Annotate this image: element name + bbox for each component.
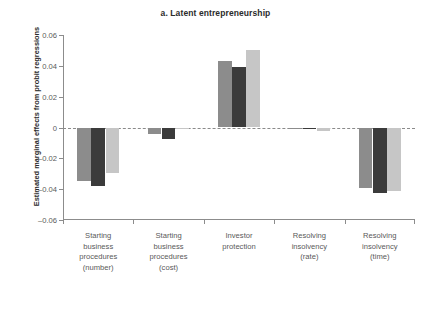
x-category-label-line: Resolving xyxy=(345,231,415,242)
x-category-label-line: procedures xyxy=(133,252,203,263)
chart-title: a. Latent entrepreneurship xyxy=(0,8,431,18)
x-category-label-line: (rate) xyxy=(274,252,344,263)
bar xyxy=(77,128,91,181)
x-tick-mark xyxy=(345,220,346,224)
bar xyxy=(106,128,120,173)
y-tick-label: –0.02 xyxy=(38,154,57,163)
bar xyxy=(91,128,105,187)
x-category-label-line: Starting xyxy=(133,231,203,242)
bar xyxy=(303,128,317,129)
y-tick-label: 0 xyxy=(53,123,57,132)
x-category-label-line: procedures xyxy=(63,252,133,263)
y-tick-label: 0.06 xyxy=(42,31,57,40)
x-tick-mark xyxy=(414,220,415,224)
bar xyxy=(373,128,387,194)
x-category-label-line: insolvency xyxy=(274,242,344,253)
x-category-label-line: protection xyxy=(204,242,274,253)
bar xyxy=(148,128,162,134)
bar xyxy=(359,128,373,188)
bar xyxy=(162,128,176,139)
bar-group xyxy=(359,35,401,220)
x-category-label-line: insolvency xyxy=(345,242,415,253)
x-category-label-line: (time) xyxy=(345,252,415,263)
bar xyxy=(176,128,190,130)
x-tick-mark xyxy=(133,220,134,224)
bar xyxy=(317,128,331,131)
x-tick-mark xyxy=(274,220,275,224)
y-tick-label: 0.04 xyxy=(42,61,57,70)
y-tick-label: –0.06 xyxy=(38,216,57,225)
chart-figure: a. Latent entrepreneurship Estimated mar… xyxy=(0,0,431,309)
bar-group xyxy=(77,35,119,220)
x-category-label-line: (number) xyxy=(63,263,133,274)
bar xyxy=(218,61,232,127)
bar xyxy=(232,67,246,128)
bar-group xyxy=(289,35,331,220)
x-category-label-line: Starting xyxy=(63,231,133,242)
y-tick-mark xyxy=(59,128,63,129)
x-category-label: Startingbusinessprocedures(number) xyxy=(63,231,133,273)
x-category-label: Startingbusinessprocedures(cost) xyxy=(133,231,203,273)
y-tick-mark xyxy=(59,189,63,190)
x-category-label: Resolvinginsolvency(time) xyxy=(345,231,415,263)
y-tick-mark xyxy=(59,66,63,67)
bar xyxy=(387,128,401,192)
x-category-label-line: business xyxy=(133,242,203,253)
x-category-label-line: business xyxy=(63,242,133,253)
x-category-label-line: Resolving xyxy=(274,231,344,242)
bar-group xyxy=(218,35,260,220)
y-tick-label: 0.02 xyxy=(42,92,57,101)
x-category-label-line: Investor xyxy=(204,231,274,242)
plot-area: 0.060.040.020–0.02–0.04–0.06 Startingbus… xyxy=(63,35,415,220)
bar-group xyxy=(148,35,190,220)
y-tick-mark xyxy=(59,35,63,36)
y-tick-mark xyxy=(59,158,63,159)
bar xyxy=(289,128,303,129)
y-tick-mark xyxy=(59,97,63,98)
x-category-label: Resolvinginsolvency(rate) xyxy=(274,231,344,263)
x-category-label-line: (cost) xyxy=(133,263,203,274)
bar xyxy=(246,50,260,127)
x-category-label: Investorprotection xyxy=(204,231,274,252)
x-tick-mark xyxy=(63,220,64,224)
x-tick-mark xyxy=(204,220,205,224)
y-tick-label: –0.04 xyxy=(38,185,57,194)
